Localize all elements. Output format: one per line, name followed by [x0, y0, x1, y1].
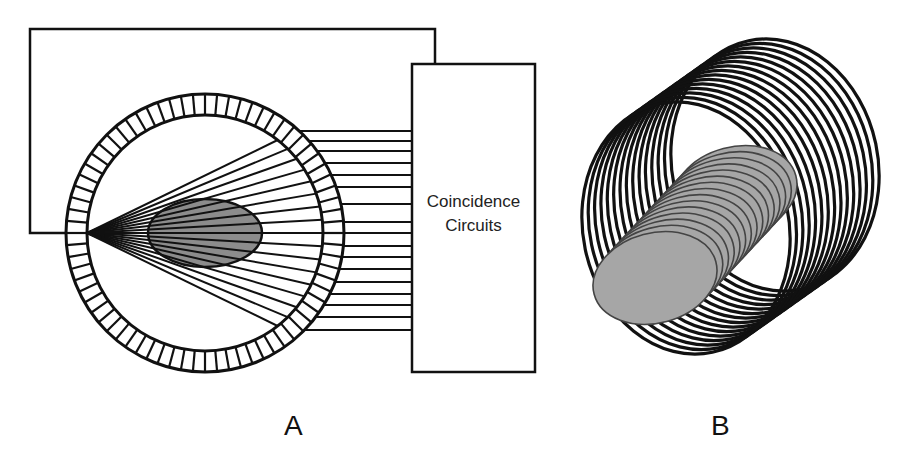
- coincidence-fan-lines: [87, 140, 323, 326]
- panel-b-label: B: [711, 410, 730, 442]
- coincidence-label-line1: Coincidence: [412, 190, 535, 214]
- coincidence-circuits-label: Coincidence Circuits: [412, 190, 535, 238]
- coincidence-label-line2: Circuits: [412, 214, 535, 238]
- panel-b-cylinder: [559, 19, 902, 373]
- pet-detector-diagram: Coincidence Circuits A B: [0, 0, 921, 464]
- panel-a-label: A: [284, 410, 303, 442]
